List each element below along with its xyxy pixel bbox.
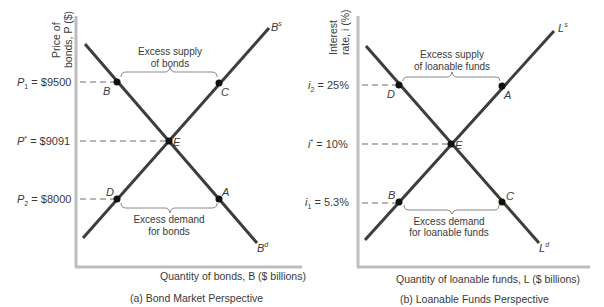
- excess-demand-brace: [121, 203, 217, 213]
- label-d: D: [106, 186, 114, 198]
- caption-b: (b) Loanable Funds Perspective: [400, 293, 549, 305]
- excess-demand-text-1: Excess demand: [413, 216, 484, 227]
- excess-supply-text-2: of loanable funds: [414, 61, 490, 72]
- y-axis-label-2: rate, i (%): [339, 9, 351, 55]
- point-d: [396, 82, 403, 89]
- label-e: E: [455, 139, 463, 151]
- bs-label: Bs: [271, 20, 282, 33]
- pstar-label: P* = $9091: [17, 135, 70, 147]
- label-b: B: [388, 189, 395, 201]
- i1-label: i1 = 5.3%: [305, 196, 349, 210]
- panel-a: Price of bonds, P ($) B C E D A Bs Bd P1…: [17, 11, 306, 304]
- x-axis-label: Quantity of loanable funds, L ($ billion…: [396, 273, 580, 285]
- label-c: C: [506, 190, 514, 202]
- excess-supply-text-1: Excess supply: [138, 46, 202, 57]
- y-axis-label-1: Price of: [50, 22, 62, 58]
- point-b: [114, 79, 121, 86]
- point-e: [166, 138, 173, 145]
- label-a: A: [503, 89, 511, 101]
- point-d: [114, 196, 121, 203]
- excess-supply-text-1: Excess supply: [420, 49, 484, 60]
- point-c: [499, 199, 506, 206]
- diagram-canvas: Price of bonds, P ($) B C E D A Bs Bd P1…: [0, 0, 604, 307]
- label-b: B: [103, 85, 110, 97]
- y-axis-label-2: bonds, P ($): [62, 11, 74, 68]
- excess-demand-text-2: for bonds: [148, 226, 190, 237]
- excess-supply-text-2: of bonds: [151, 58, 189, 69]
- panel-b: Interest rate, i (%) D A E B C Ls Ld i2 …: [305, 9, 590, 305]
- label-d: D: [387, 88, 395, 100]
- bd-label: Bd: [257, 241, 269, 254]
- excess-demand-text-1: Excess demand: [133, 214, 204, 225]
- caption-a: (a) Bond Market Perspective: [130, 292, 263, 304]
- ld-label: Ld: [539, 241, 550, 254]
- ls-label: Ls: [558, 21, 568, 34]
- x-axis-label: Quantity of bonds, B ($ billions): [160, 270, 306, 282]
- label-c: C: [221, 86, 229, 98]
- p2-label: P2 = $8000: [17, 193, 71, 207]
- point-e: [448, 141, 455, 148]
- excess-demand-brace: [404, 205, 499, 214]
- i2-label: i2 = 25%: [308, 79, 349, 93]
- p1-label: P1 = $9500: [17, 76, 71, 90]
- excess-supply-brace: [403, 72, 500, 81]
- y-axis-label-1: Interest: [327, 20, 339, 55]
- label-e: E: [173, 136, 181, 148]
- excess-demand-text-2: for loanable funds: [409, 227, 489, 238]
- point-b: [396, 199, 403, 206]
- istar-label: i* = 10%: [308, 138, 348, 150]
- label-a: A: [221, 186, 229, 198]
